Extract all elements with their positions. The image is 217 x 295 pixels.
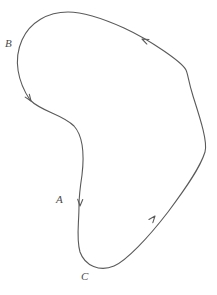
point-label-b: B (5, 38, 12, 49)
arrowhead-layer (25, 39, 155, 223)
arrow-top-right (142, 39, 149, 44)
arrow-bottom-right (149, 216, 155, 223)
curve-diagram (0, 0, 217, 295)
figure-canvas: A B C (0, 0, 217, 295)
point-label-a: A (56, 194, 63, 205)
point-label-c: C (81, 271, 88, 282)
closed-curve-path (17, 12, 205, 268)
